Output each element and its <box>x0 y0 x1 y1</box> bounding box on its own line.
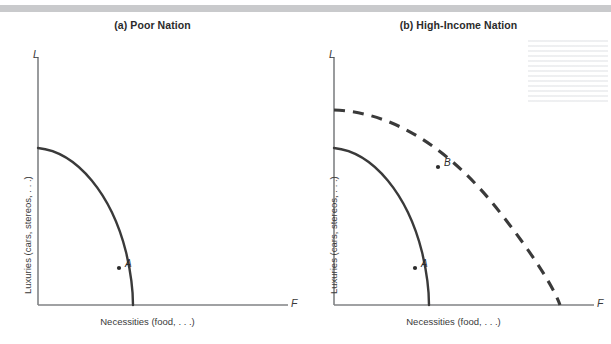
ppf-curve-solid <box>334 148 429 305</box>
y-axis-label: Luxuries (cars, stereos, . . .) <box>328 176 339 294</box>
figure-canvas: (a) Poor Nation Luxuries (cars, stereos,… <box>0 0 611 344</box>
point-marker-a <box>413 266 417 270</box>
point-marker-a <box>117 266 121 270</box>
y-axis-tip-label: L <box>33 48 39 60</box>
point-label-a: A <box>421 258 428 269</box>
ppf-curve-solid <box>38 148 133 305</box>
x-axis-label: Necessities (food, . . .) <box>30 316 265 327</box>
y-axis-label: Luxuries (cars, stereos, . . .) <box>22 176 33 294</box>
point-marker-b <box>436 165 440 169</box>
y-axis-tip-label: L <box>329 48 335 60</box>
plot-area-poor-nation <box>0 0 305 344</box>
panel-high-income-nation: (b) High-Income Nation Luxuries (cars, s… <box>306 0 611 344</box>
point-label-a: A <box>125 258 132 269</box>
x-axis-tip-label: F <box>597 297 603 309</box>
plot-area-high-income-nation <box>306 0 611 344</box>
x-axis-tip-label: F <box>291 297 297 309</box>
panel-poor-nation: (a) Poor Nation Luxuries (cars, stereos,… <box>0 0 305 344</box>
point-label-b: B <box>444 157 451 168</box>
x-axis-label: Necessities (food, . . .) <box>336 316 571 327</box>
ppf-curve-dashed <box>334 110 560 305</box>
